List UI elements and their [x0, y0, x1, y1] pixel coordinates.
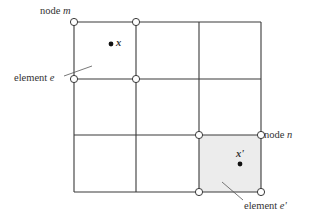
node-m-label: node m: [40, 5, 71, 16]
point-x-icon: [109, 42, 114, 47]
element-e-label: element e: [14, 72, 55, 83]
node-n-label: node n: [264, 129, 292, 140]
element-e-leader: [64, 66, 92, 76]
element-e-prime-shade: [199, 135, 261, 192]
node-icon: [195, 188, 202, 195]
point-x-label: x: [116, 37, 121, 48]
node-icon: [195, 131, 202, 138]
node-icon: [70, 75, 77, 82]
mesh-diagram: [0, 0, 313, 221]
node-icon: [257, 188, 264, 195]
node-m-icon: [70, 18, 77, 25]
node-icon: [132, 18, 139, 25]
point-x-prime-icon: [238, 162, 243, 167]
point-x-prime-label: x': [236, 148, 244, 159]
node-icon: [132, 75, 139, 82]
element-e-prime-label: element e': [244, 200, 287, 211]
